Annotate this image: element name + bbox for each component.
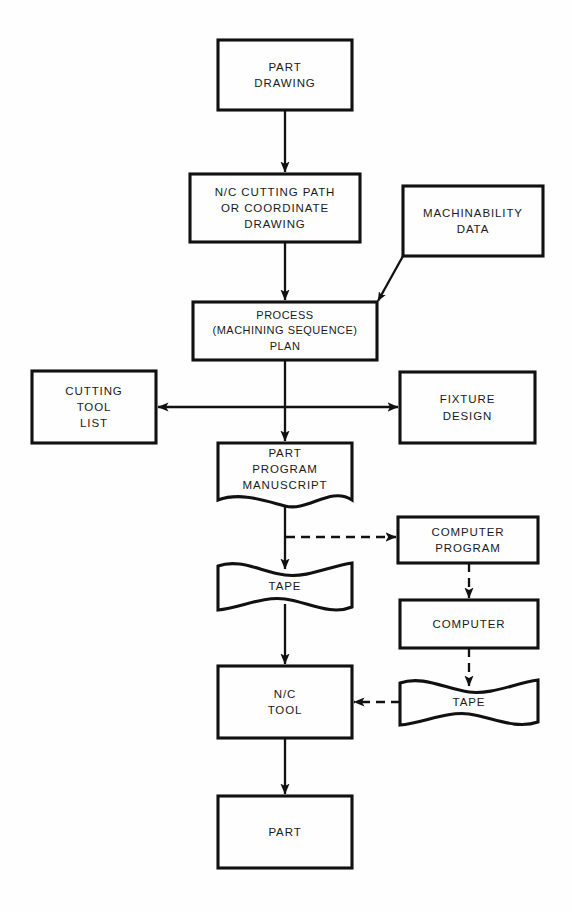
node-computer xyxy=(400,600,538,648)
diagram-vector-layer xyxy=(0,0,572,912)
node-process-plan xyxy=(193,302,377,360)
node-fixture-design xyxy=(400,372,535,443)
node-computer-program xyxy=(398,517,538,563)
node-machinability-data xyxy=(403,186,543,256)
node-nc-cutting-path xyxy=(190,174,360,242)
node-nc-tool xyxy=(218,666,352,738)
node-part xyxy=(218,796,352,868)
node-tape-computed xyxy=(400,680,538,725)
node-tape-manual xyxy=(218,563,352,610)
connector-machinability-data-to-process-plan xyxy=(378,256,403,301)
node-cutting-tool-list xyxy=(32,371,156,443)
node-part-program-manuscript xyxy=(218,443,352,507)
flowchart-diagram: PART DRAWING N/C CUTTING PATH OR COORDIN… xyxy=(0,0,572,912)
node-part-drawing xyxy=(218,40,352,110)
